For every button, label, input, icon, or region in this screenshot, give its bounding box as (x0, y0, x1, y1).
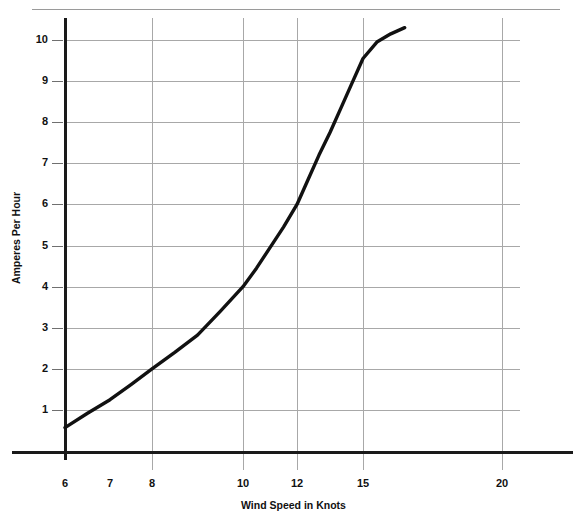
y-tickmark-6 (52, 204, 63, 205)
gridline-x-8 (152, 18, 153, 470)
x-tick-label-20: 20 (487, 477, 517, 489)
gridline-x-12 (297, 18, 298, 470)
y-tick-label-1: 1 (22, 403, 48, 415)
y-tickmark-5 (52, 246, 63, 247)
gridline-y-5 (65, 246, 520, 247)
gridline-y-6 (65, 204, 520, 205)
x-tick-label-7: 7 (95, 477, 125, 489)
y-tick-label-8: 8 (22, 115, 48, 127)
data-curve (0, 0, 587, 520)
gridline-x-15 (363, 18, 364, 470)
y-tick-label-5: 5 (22, 239, 48, 251)
y-tickmark-2 (52, 369, 63, 370)
y-tickmark-10 (52, 40, 63, 41)
y-axis-title: Amperes Per Hour (10, 173, 22, 303)
y-tick-label-9: 9 (22, 74, 48, 86)
gridline-y-1 (65, 410, 520, 411)
x-tick-label-12: 12 (282, 477, 312, 489)
gridline-y-3 (65, 328, 520, 329)
x-tick-label-10: 10 (228, 477, 258, 489)
y-tickmark-4 (52, 287, 63, 288)
x-tick-label-6: 6 (50, 477, 80, 489)
y-tick-label-6: 6 (22, 197, 48, 209)
x-axis-line (12, 451, 573, 454)
y-tick-label-3: 3 (22, 321, 48, 333)
y-tick-label-7: 7 (22, 156, 48, 168)
x-tick-label-15: 15 (348, 477, 378, 489)
y-tick-label-2: 2 (22, 362, 48, 374)
y-tick-label-10: 10 (22, 33, 48, 45)
y-tickmark-7 (52, 163, 63, 164)
x-axis-title: Wind Speed in Knots (0, 499, 587, 511)
gridline-x-10 (243, 18, 244, 470)
y-tickmark-3 (52, 328, 63, 329)
plot-area: 10 9 8 7 6 5 4 3 2 1 6 7 8 10 12 15 20 W… (0, 0, 587, 520)
gridline-y-10 (65, 40, 520, 41)
gridline-y-8 (65, 122, 520, 123)
y-tickmark-9 (52, 81, 63, 82)
gridline-y-9 (65, 81, 520, 82)
gridline-y-7 (65, 163, 520, 164)
y-tickmark-8 (52, 122, 63, 123)
y-axis-line (64, 18, 67, 460)
gridline-x-20 (502, 18, 503, 470)
y-tickmark-1 (52, 410, 63, 411)
gridline-y-2 (65, 369, 520, 370)
gridline-y-4 (65, 287, 520, 288)
y-tick-label-4: 4 (22, 280, 48, 292)
x-tick-label-8: 8 (137, 477, 167, 489)
chart-page: 10 9 8 7 6 5 4 3 2 1 6 7 8 10 12 15 20 W… (0, 0, 587, 520)
